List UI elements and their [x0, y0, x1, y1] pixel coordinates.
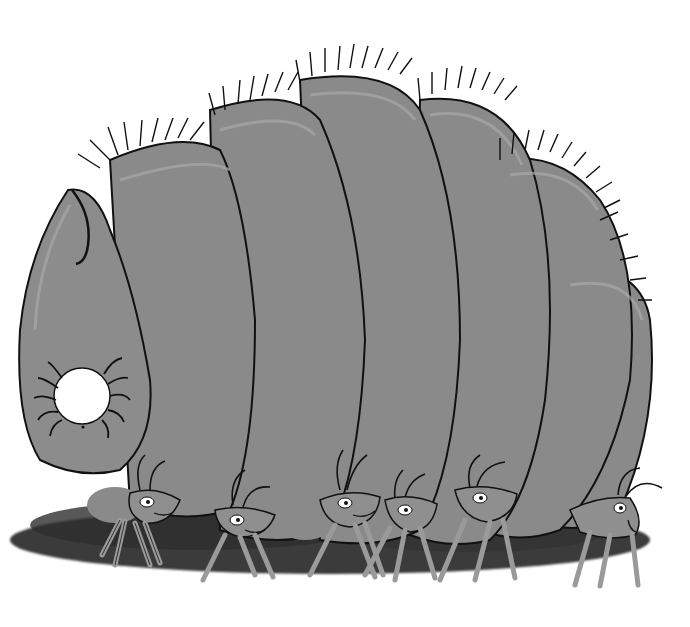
larva-illustration [0, 0, 690, 627]
larva-body [19, 76, 652, 544]
illustration-canvas: Grayscale hand-drawn illustration of a l… [0, 0, 690, 627]
